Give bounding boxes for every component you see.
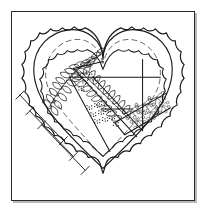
bed-edge-lower-right-connector bbox=[115, 123, 125, 135]
garden-plan-drawing bbox=[12, 12, 194, 200]
inner-hedge-border bbox=[40, 50, 167, 157]
inner-hedge-scalloped-outline bbox=[40, 50, 167, 157]
screenshot-root bbox=[0, 0, 209, 218]
garden-plan-frame bbox=[11, 11, 195, 201]
dimension-annotations bbox=[16, 91, 89, 174]
